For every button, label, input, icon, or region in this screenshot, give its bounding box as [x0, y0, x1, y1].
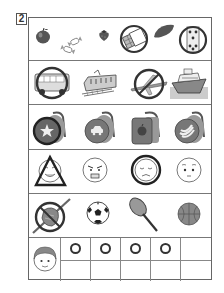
answer-cell-1[interactable]: [60, 238, 90, 281]
bus-icon[interactable]: [32, 65, 72, 101]
boy-face-icon: [32, 244, 58, 274]
circle-mark-icon: [100, 243, 111, 254]
row-foods: [29, 18, 211, 61]
circle-mark-icon: [70, 243, 81, 254]
row-backpacks: [29, 105, 211, 150]
candies-icon[interactable]: [61, 36, 83, 54]
happy-face-icon[interactable]: [33, 155, 69, 189]
apple-icon[interactable]: [35, 27, 51, 44]
tennis-racket-icon[interactable]: [127, 196, 161, 234]
basketball-icon[interactable]: [177, 202, 201, 226]
row-vehicles: [29, 61, 211, 105]
worksheet-table: [28, 17, 212, 280]
apple-backpack-icon[interactable]: [129, 109, 165, 147]
baseball-glove-bat-icon[interactable]: [30, 196, 72, 236]
strawberry-icon[interactable]: [98, 28, 110, 42]
question-number: 2: [16, 13, 27, 25]
circle-mark-icon: [160, 243, 171, 254]
answer-cell-2[interactable]: [90, 238, 120, 281]
train-icon[interactable]: [82, 67, 118, 99]
row-faces: [29, 150, 211, 194]
soccer-ball-icon[interactable]: [86, 201, 110, 225]
answer-cell-3[interactable]: [120, 238, 150, 281]
ship-icon[interactable]: [170, 65, 210, 101]
banana-backpack-icon[interactable]: [172, 109, 208, 147]
answer-cell-4[interactable]: [150, 238, 180, 281]
circle-mark-icon: [130, 243, 141, 254]
star-backpack-icon[interactable]: [33, 109, 69, 147]
sweet-potato-icon[interactable]: [153, 23, 175, 39]
answer-cell-5[interactable]: [180, 238, 211, 281]
airplane-icon[interactable]: [129, 65, 169, 101]
answer-grid: [29, 238, 211, 281]
dice-snack-icon[interactable]: [178, 22, 208, 56]
car-backpack-icon[interactable]: [82, 109, 118, 147]
sad-face-icon[interactable]: [130, 154, 162, 186]
angry-face-icon[interactable]: [81, 156, 109, 184]
row-sports: [29, 194, 211, 238]
neutral-face-icon[interactable]: [175, 156, 203, 184]
chocolate-bar-icon[interactable]: [119, 23, 149, 55]
